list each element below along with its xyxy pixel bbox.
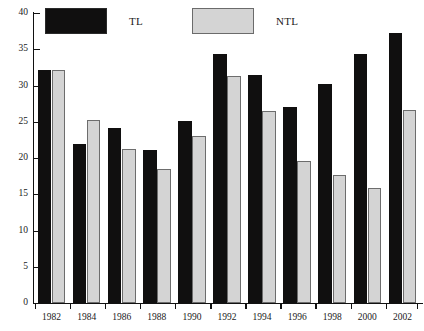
x-tick-label-1984: 1984 [67, 312, 107, 322]
bar-tl-1986 [108, 128, 122, 303]
x-tick-2002 [386, 303, 387, 309]
y-tick-label-0: 0 [0, 298, 28, 308]
y-tick-label-30: 30 [0, 81, 28, 91]
x-tick-label-1986: 1986 [102, 312, 142, 322]
x-tick-label-2002: 2002 [382, 312, 422, 322]
bar-ntl-1992 [227, 76, 241, 303]
x-tick-label-1990: 1990 [172, 312, 212, 322]
bar-ntl-1984 [87, 120, 101, 303]
x-tick-1988 [140, 303, 141, 309]
x-tick-label-1988: 1988 [137, 312, 177, 322]
bar-ntl-1990 [192, 136, 206, 303]
x-tick-label-1992: 1992 [207, 312, 247, 322]
bar-ntl-1998 [333, 175, 347, 303]
x-tick-1994 [245, 303, 246, 309]
bar-ntl-1996 [297, 161, 311, 303]
y-tick-40 [33, 13, 40, 14]
bar-tl-2000 [354, 54, 368, 303]
x-tick-1998 [315, 303, 316, 309]
x-tick-label-1994: 1994 [242, 312, 282, 322]
bar-ntl-2002 [403, 110, 417, 303]
bar-tl-1988 [143, 150, 157, 303]
bar-tl-2002 [389, 33, 403, 303]
x-tick-end [417, 303, 418, 309]
bar-tl-1990 [178, 121, 192, 303]
bar-ntl-1982 [52, 70, 66, 303]
x-tick-label-2000: 2000 [347, 312, 387, 322]
bar-tl-1984 [73, 144, 87, 304]
x-tick-1984 [70, 303, 71, 309]
bar-chart: TL NTL 0510152025303540 1982198419861988… [0, 0, 424, 331]
y-tick-label-40: 40 [0, 8, 28, 18]
x-tick-2000 [351, 303, 352, 309]
bar-ntl-1986 [122, 149, 136, 303]
y-tick-label-20: 20 [0, 153, 28, 163]
bar-ntl-1988 [157, 169, 171, 303]
bar-tl-1996 [283, 107, 297, 303]
y-tick-label-5: 5 [0, 262, 28, 272]
y-tick-label-35: 35 [0, 44, 28, 54]
x-tick-1996 [280, 303, 281, 309]
bar-tl-1994 [248, 75, 262, 303]
bar-tl-1992 [213, 54, 227, 303]
bar-ntl-1994 [262, 111, 276, 303]
x-axis-line [33, 303, 423, 304]
x-tick-1992 [210, 303, 211, 309]
y-tick-label-15: 15 [0, 189, 28, 199]
x-tick-1986 [105, 303, 106, 309]
x-tick-label-1998: 1998 [312, 312, 352, 322]
bar-tl-1982 [38, 70, 52, 303]
y-tick-35 [33, 49, 40, 50]
x-tick-1982 [35, 303, 36, 309]
x-tick-label-1996: 1996 [277, 312, 317, 322]
y-tick-label-10: 10 [0, 226, 28, 236]
plot-area: 0510152025303540 19821984198619881990199… [0, 0, 424, 331]
x-tick-1990 [175, 303, 176, 309]
y-tick-label-25: 25 [0, 117, 28, 127]
bar-tl-1998 [318, 84, 332, 303]
x-tick-label-1982: 1982 [32, 312, 72, 322]
bar-ntl-2000 [368, 188, 382, 303]
